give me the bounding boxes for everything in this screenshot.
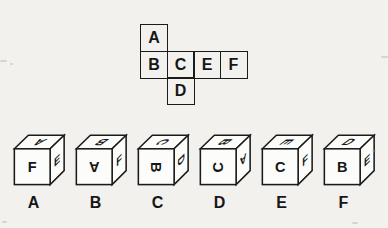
cube-option-c: C D B C bbox=[134, 128, 192, 211]
net-letter: A bbox=[148, 30, 160, 46]
cube-front-letter: A bbox=[88, 159, 99, 175]
net-letter: E bbox=[202, 57, 213, 73]
net-cell-a: A bbox=[140, 24, 168, 52]
net-cell-f: F bbox=[220, 51, 248, 79]
cube-drawing: B F A bbox=[72, 128, 130, 188]
cube-front-letter: C bbox=[275, 159, 286, 175]
cube-option-f: D E B F bbox=[320, 128, 378, 211]
scan-noise-mark bbox=[2, 221, 7, 223]
option-label-a: A bbox=[10, 195, 57, 211]
net-cell-e: E bbox=[193, 51, 221, 79]
net-cell-b: B bbox=[140, 51, 168, 79]
cube-net: A B C E F D bbox=[140, 24, 250, 107]
net-letter: D bbox=[175, 83, 187, 99]
cube-option-e: E F C E bbox=[258, 128, 316, 211]
cube-option-a: A E F A bbox=[10, 128, 68, 211]
net-cell-c: C bbox=[167, 51, 195, 79]
cube-front-letter: F bbox=[28, 159, 37, 175]
scan-noise-mark bbox=[352, 222, 358, 224]
cube-option-b: B F A B bbox=[72, 128, 130, 211]
option-label-e: E bbox=[258, 195, 305, 211]
cube-front-letter: B bbox=[148, 162, 164, 172]
cube-drawing: B A C bbox=[196, 128, 254, 188]
cube-drawing: D E B bbox=[320, 128, 378, 188]
scan-noise-mark bbox=[372, 150, 376, 152]
option-label-d: D bbox=[196, 195, 243, 211]
cube-drawing: A E F bbox=[10, 128, 68, 188]
cube-option-d: B A C D bbox=[196, 128, 254, 211]
scan-noise-mark bbox=[381, 56, 388, 58]
cube-front-letter: B bbox=[337, 159, 347, 175]
option-label-f: F bbox=[320, 195, 367, 211]
net-letter: F bbox=[229, 57, 239, 73]
option-label-c: C bbox=[134, 195, 181, 211]
scan-noise-mark bbox=[10, 63, 13, 65]
cube-drawing: E F C bbox=[258, 128, 316, 188]
cube-front-letter: C bbox=[210, 161, 226, 172]
net-letter: B bbox=[148, 57, 160, 73]
option-label-b: B bbox=[72, 195, 119, 211]
scan-noise-mark bbox=[0, 60, 7, 62]
cube-drawing: C D B bbox=[134, 128, 192, 188]
net-letter: C bbox=[175, 57, 187, 73]
net-cell-d: D bbox=[167, 77, 195, 105]
answer-options-row: A E F A B F A B C D B C bbox=[0, 128, 388, 211]
